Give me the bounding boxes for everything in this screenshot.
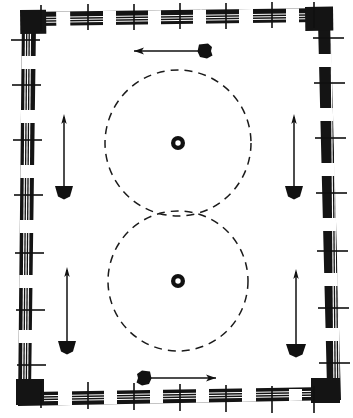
- lower-circle-center-donut: [171, 274, 185, 288]
- upper-right-vertical-arrow: [285, 114, 303, 200]
- upper-left-vertical-arrow: [55, 114, 73, 200]
- lower-right-vertical-arrow: [286, 269, 306, 358]
- upper-circle-center-donut: [171, 136, 185, 150]
- top-horizontal-arrow: [134, 44, 213, 59]
- dashed-circles-group: [105, 70, 251, 351]
- bottom-horizontal-arrow: [137, 371, 217, 386]
- technical-drawing-canvas: Reinforced formwork plan with two dashed…: [0, 0, 353, 418]
- center-markers-group: [171, 136, 185, 288]
- drawing-svg: [0, 0, 353, 418]
- lower-left-vertical-arrow: [58, 267, 76, 355]
